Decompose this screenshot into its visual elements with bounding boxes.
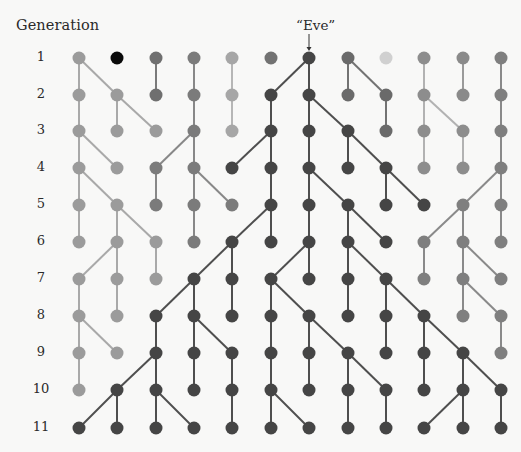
individual-node <box>150 89 163 102</box>
individual-node <box>111 199 124 212</box>
individual-node <box>457 384 470 397</box>
individual-node <box>265 162 278 175</box>
individual-node <box>495 273 508 286</box>
edge <box>271 58 309 95</box>
edge <box>309 95 348 131</box>
individual-node <box>342 52 355 65</box>
edge <box>117 205 156 242</box>
eve-arrow-icon <box>307 34 312 51</box>
individual-node <box>150 384 163 397</box>
individual-node <box>418 422 431 435</box>
individual-node <box>457 273 470 286</box>
edge <box>386 279 424 316</box>
individual-node <box>226 273 239 286</box>
individual-node <box>303 125 316 138</box>
individual-node <box>73 273 86 286</box>
edge <box>271 242 309 279</box>
individual-node <box>495 310 508 323</box>
edge <box>194 316 232 353</box>
individual-node <box>342 199 355 212</box>
individual-node <box>73 89 86 102</box>
individual-node <box>226 422 239 435</box>
individual-node <box>457 347 470 360</box>
individual-node <box>226 384 239 397</box>
individual-node <box>342 89 355 102</box>
individual-node <box>111 384 124 397</box>
individual-node <box>150 347 163 360</box>
edge <box>271 390 309 428</box>
individual-node <box>418 273 431 286</box>
individual-node <box>418 162 431 175</box>
individual-node <box>73 199 86 212</box>
individual-node <box>342 384 355 397</box>
individual-node <box>150 162 163 175</box>
individual-node <box>188 236 201 249</box>
individual-node <box>380 199 393 212</box>
individual-node <box>303 89 316 102</box>
individual-node <box>457 52 470 65</box>
individual-node <box>226 236 239 249</box>
edge <box>117 353 156 390</box>
individual-node <box>380 422 393 435</box>
individual-node <box>226 125 239 138</box>
individual-node <box>188 199 201 212</box>
individual-node <box>73 310 86 323</box>
individual-node <box>188 422 201 435</box>
individual-node <box>150 199 163 212</box>
edge <box>463 242 501 279</box>
individual-node <box>418 236 431 249</box>
edge <box>386 168 424 205</box>
individual-node <box>226 310 239 323</box>
individual-node <box>226 199 239 212</box>
individual-node <box>111 347 124 360</box>
edge <box>79 168 117 205</box>
edge <box>424 205 463 242</box>
individual-node <box>111 162 124 175</box>
individual-node <box>73 347 86 360</box>
individual-node <box>226 347 239 360</box>
individual-node <box>265 422 278 435</box>
edge <box>79 58 117 95</box>
individual-node <box>73 162 86 175</box>
individual-node <box>418 52 431 65</box>
individual-node <box>342 162 355 175</box>
individual-node <box>73 52 86 65</box>
individual-node <box>303 199 316 212</box>
individual-node <box>303 52 316 65</box>
individual-node <box>150 273 163 286</box>
individual-node <box>265 52 278 65</box>
individual-node <box>111 273 124 286</box>
individual-node <box>303 347 316 360</box>
individual-node <box>73 422 86 435</box>
edge <box>424 390 463 428</box>
edge <box>117 95 156 131</box>
individual-node <box>150 236 163 249</box>
individual-node <box>495 199 508 212</box>
individual-node <box>457 125 470 138</box>
individual-node <box>226 162 239 175</box>
individual-node <box>188 89 201 102</box>
individual-node <box>226 52 239 65</box>
edge <box>348 205 386 242</box>
individual-node <box>111 52 124 65</box>
individual-node <box>342 347 355 360</box>
individual-node <box>380 384 393 397</box>
individual-node <box>380 273 393 286</box>
edge <box>463 279 501 316</box>
individual-node <box>457 89 470 102</box>
individual-node <box>111 422 124 435</box>
edge <box>424 316 463 353</box>
edge <box>348 242 386 279</box>
edge <box>79 390 117 428</box>
individual-node <box>150 422 163 435</box>
individual-node <box>265 199 278 212</box>
individual-node <box>495 52 508 65</box>
individual-node <box>495 125 508 138</box>
individual-node <box>495 422 508 435</box>
individual-node <box>380 347 393 360</box>
individual-node <box>418 199 431 212</box>
individual-node <box>188 384 201 397</box>
individual-node <box>342 273 355 286</box>
individual-node <box>303 384 316 397</box>
individual-node <box>495 89 508 102</box>
